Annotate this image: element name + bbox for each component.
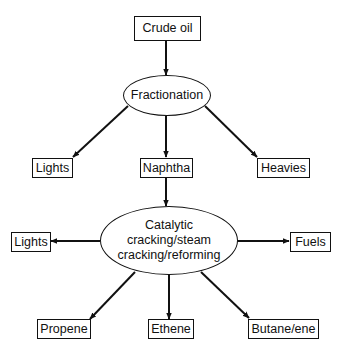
node-heavies: Heavies	[257, 158, 310, 178]
node-lights-label: Lights	[36, 162, 69, 175]
node-cracking-reforming: Catalytic cracking/steam cracking/reform…	[100, 206, 238, 275]
node-heavies-label: Heavies	[261, 162, 306, 175]
node-naphtha-label: Naphtha	[143, 162, 190, 175]
node-ethene-label: Ethene	[151, 323, 191, 336]
node-fuels-label: Fuels	[295, 236, 326, 249]
arrow-cracking-to-butane-ene	[201, 272, 249, 318]
refinery-flow-diagram: Crude oil Fractionation Lights Naphtha H…	[0, 0, 347, 351]
node-fuels: Fuels	[290, 232, 331, 252]
node-crude-oil-label: Crude oil	[142, 22, 192, 35]
node-butane-ene: Butane/ene	[248, 319, 319, 339]
node-fractionation-label: Fractionation	[131, 88, 203, 103]
node-butane-ene-label: Butane/ene	[252, 323, 316, 336]
node-propene: Propene	[37, 319, 91, 339]
node-lights-cracking: Lights	[11, 232, 51, 252]
node-crude-oil: Crude oil	[134, 16, 201, 41]
node-naphtha: Naphtha	[140, 158, 193, 178]
node-lights-fractionation: Lights	[32, 158, 73, 178]
node-ethene: Ethene	[148, 319, 194, 339]
node-propene-label: Propene	[40, 323, 87, 336]
node-fractionation: Fractionation	[123, 75, 211, 116]
node-cracking-label: Catalytic cracking/steam cracking/reform…	[118, 218, 221, 262]
arrow-cracking-to-propene	[90, 272, 135, 319]
arrow-fractionation-to-lights	[73, 106, 128, 157]
node-lights-2-label: Lights	[14, 236, 47, 249]
arrow-fractionation-to-heavies	[205, 106, 257, 157]
